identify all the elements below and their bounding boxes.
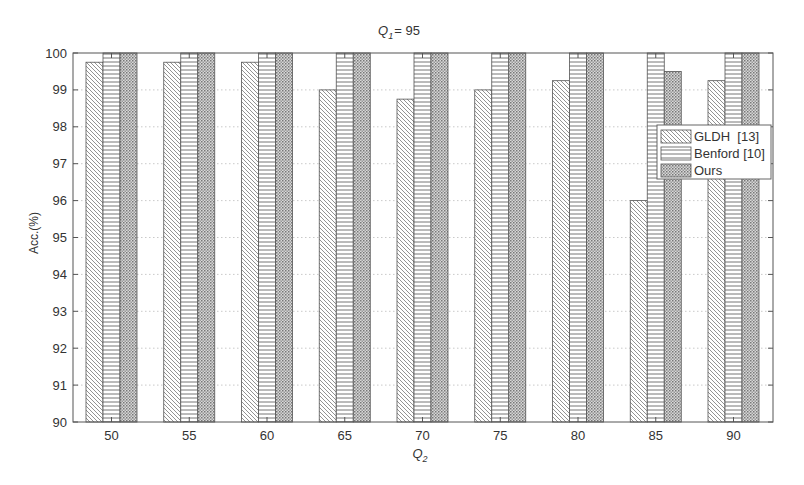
- x-tick-label: 80: [571, 428, 585, 443]
- bar: [276, 53, 293, 422]
- bar: [647, 53, 664, 422]
- bar: [553, 81, 570, 422]
- bar: [475, 90, 492, 422]
- bars: [86, 53, 759, 422]
- y-tick-label: 94: [53, 267, 67, 282]
- y-tick-label: 91: [53, 378, 67, 393]
- y-tick-label: 96: [53, 193, 67, 208]
- x-tick-label: 85: [649, 428, 663, 443]
- x-tick-label: 90: [726, 428, 740, 443]
- bar: [509, 53, 526, 422]
- y-axis-label: Acc.(%): [27, 212, 41, 254]
- bar: [414, 53, 431, 422]
- y-tick-label: 100: [45, 46, 67, 61]
- x-tick-label: 70: [415, 428, 429, 443]
- x-axis-label: Q2: [412, 446, 427, 464]
- legend-item-gldh: GLDH [13]: [661, 129, 759, 144]
- bar: [492, 53, 509, 422]
- x-tick-label: 55: [182, 428, 196, 443]
- y-tick-label: 90: [53, 415, 67, 430]
- svg-text:Benford [10]: Benford [10]: [694, 146, 765, 161]
- y-tick-label: 95: [53, 230, 67, 245]
- y-tick-label: 97: [53, 156, 67, 171]
- y-tick-label: 93: [53, 304, 67, 319]
- svg-text:GLDH [13]: GLDH [13]: [694, 129, 759, 144]
- x-tick-label: 65: [338, 428, 352, 443]
- bar: [397, 99, 414, 422]
- bar: [181, 53, 198, 422]
- x-tick-label: 50: [104, 428, 118, 443]
- bar: [587, 53, 604, 422]
- bar: [742, 53, 759, 422]
- legend-item-benford: Benford [10]: [661, 146, 765, 161]
- bar: [259, 53, 276, 422]
- bar: [164, 62, 181, 422]
- legend: GLDH [13] Benford [10] Ours: [657, 125, 771, 179]
- y-tick-label: 98: [53, 119, 67, 134]
- bar-chart: 90919293949596979899100 5055606570758085…: [0, 0, 804, 485]
- y-tick-label: 99: [53, 82, 67, 97]
- bar: [630, 201, 647, 422]
- bar: [431, 53, 448, 422]
- legend-swatch-diagonal: [661, 130, 691, 143]
- bar: [120, 53, 137, 422]
- bar: [86, 62, 103, 422]
- bar: [725, 53, 742, 422]
- bar: [570, 53, 587, 422]
- chart-title: Q1= 95: [378, 23, 420, 41]
- y-tick-label: 92: [53, 341, 67, 356]
- bar: [319, 90, 336, 422]
- bar: [336, 53, 353, 422]
- svg-text:Ours: Ours: [694, 163, 723, 178]
- bar: [664, 71, 681, 422]
- bar: [103, 53, 120, 422]
- x-tick-label: 60: [260, 428, 274, 443]
- legend-swatch-crosshatch: [661, 164, 691, 177]
- x-tick-label: 75: [493, 428, 507, 443]
- bar: [353, 53, 370, 422]
- legend-swatch-horizontal: [661, 147, 691, 160]
- bar: [242, 62, 259, 422]
- bar: [198, 53, 215, 422]
